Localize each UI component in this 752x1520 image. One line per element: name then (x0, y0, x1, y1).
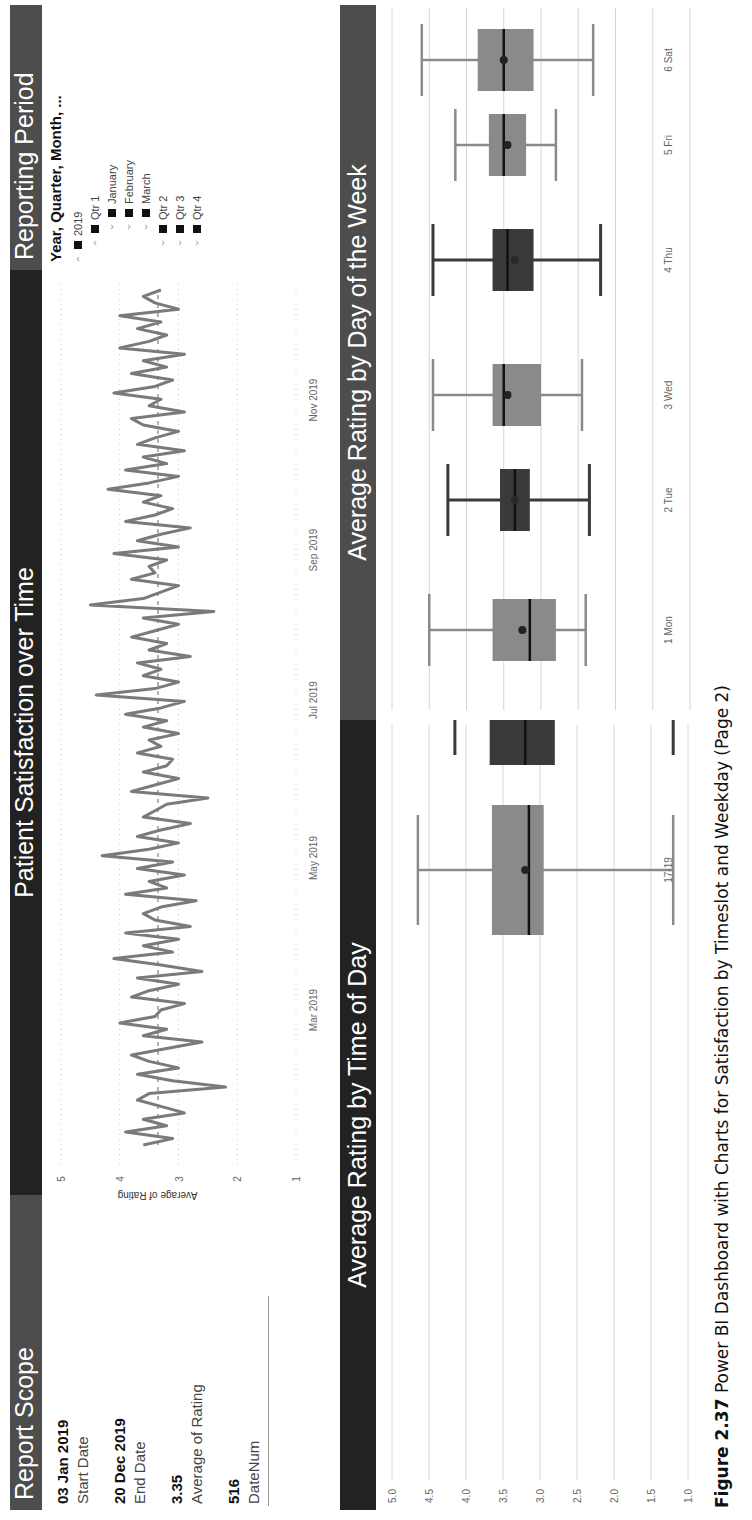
svg-text:3 Wed: 3 Wed (663, 381, 674, 410)
svg-text:3.5: 3.5 (498, 1489, 509, 1503)
end-date-value: 20 Dec 2019 (111, 1418, 128, 1504)
day-of-week-title: Average Rating by Day of the Week (340, 5, 374, 720)
report-scope-header: Report Scope (10, 1195, 42, 1510)
patient-satisfaction-chart[interactable]: Average of Rating 12345Mar 2019May 2019J… (42, 270, 332, 1195)
box-17-19[interactable] (418, 805, 673, 935)
line-chart-plot: 12345Mar 2019May 2019Jul 2019Sep 2019Nov… (42, 270, 332, 1195)
average-rating-value: 3.35 (168, 1475, 185, 1504)
datenum-label: DateNum (245, 1441, 262, 1504)
slicer-item-label: 2019 (72, 212, 84, 236)
box-3-wed[interactable] (433, 359, 582, 431)
expand-chevron-icon[interactable]: › (125, 220, 133, 232)
svg-text:Mar 2019: Mar 2019 (308, 988, 319, 1031)
checkbox-checked-icon[interactable] (142, 209, 150, 217)
svg-text:Sep 2019: Sep 2019 (308, 528, 319, 571)
box-15-17[interactable] (455, 720, 673, 765)
day-of-week-plot: 1.01.52.02.53.03.54.04.55.01 Mon2 Tue3 W… (376, 5, 696, 720)
svg-text:2 Tue: 2 Tue (663, 487, 674, 512)
checkbox-checked-icon[interactable] (125, 209, 133, 217)
checkbox-checked-icon[interactable] (91, 225, 99, 233)
svg-text:1.5: 1.5 (646, 1489, 657, 1503)
slicer-item-label: March (140, 173, 152, 204)
report-scope-title: Report Scope (10, 1195, 38, 1500)
slicer-item-qtr-2[interactable]: ›Qtr 2 (157, 196, 169, 246)
svg-text:4: 4 (115, 1176, 126, 1182)
time-of-day-title: Average Rating by Time of Day (340, 720, 374, 1510)
svg-text:5: 5 (56, 1176, 67, 1182)
time-of-day-header: Average Rating by Time of Day (340, 720, 376, 1510)
figure-number: Figure 2.37 (712, 1399, 732, 1509)
svg-text:6 Sat: 6 Sat (663, 48, 674, 72)
svg-text:5 Fri: 5 Fri (663, 135, 674, 155)
slicer-item-2019[interactable]: ‹2019 (72, 212, 84, 262)
svg-text:2.0: 2.0 (609, 1489, 620, 1503)
svg-text:2: 2 (232, 1176, 243, 1182)
reporting-period-title: Reporting Period (10, 5, 38, 260)
box-2-tue[interactable] (448, 464, 590, 536)
reporting-period-header: Reporting Period (10, 5, 42, 270)
checkbox-checked-icon[interactable] (193, 225, 201, 233)
svg-text:5.0: 5.0 (387, 1489, 398, 1503)
checkbox-checked-icon[interactable] (176, 225, 184, 233)
svg-text:1 Mon: 1 Mon (663, 616, 674, 644)
checkbox-checked-icon[interactable] (74, 241, 82, 249)
slicer-item-label: February (123, 160, 135, 204)
svg-text:Nov 2019: Nov 2019 (308, 378, 319, 421)
checkbox-checked-icon[interactable] (159, 225, 167, 233)
slicer-title: Year, Quarter, Month, ... (47, 95, 64, 262)
reporting-period-slicer[interactable]: Year, Quarter, Month, ... ‹2019‹Qtr 1›Ja… (42, 5, 332, 270)
figure-caption: Figure 2.37 Power BI Dashboard with Char… (712, 685, 732, 1508)
svg-text:4.5: 4.5 (424, 1489, 435, 1503)
svg-text:4.0: 4.0 (461, 1489, 472, 1503)
day-of-week-header: Average Rating by Day of the Week (340, 5, 376, 720)
svg-text:3: 3 (174, 1176, 185, 1182)
svg-text:2.5: 2.5 (572, 1489, 583, 1503)
slicer-item-label: Qtr 1 (89, 196, 101, 220)
day-of-week-boxplot[interactable]: 1.01.52.02.53.03.54.04.55.01 Mon2 Tue3 W… (376, 5, 696, 720)
svg-text:Jul 2019: Jul 2019 (308, 681, 319, 719)
slicer-item-label: Qtr 4 (191, 196, 203, 220)
slicer-item-label: Qtr 3 (174, 196, 186, 220)
svg-text:4 Thu: 4 Thu (663, 247, 674, 272)
time-of-day-plot: 1.01.52.02.53.03.54.04.55.009-1111-1313-… (376, 720, 696, 1510)
svg-text:17-19: 17-19 (663, 857, 674, 883)
svg-text:1.0: 1.0 (683, 1489, 694, 1503)
expand-chevron-icon[interactable]: › (176, 236, 184, 248)
dashboard-canvas: Report Scope Patient Satisfaction over T… (0, 0, 752, 1520)
expand-chevron-icon[interactable]: › (159, 236, 167, 248)
collapse-chevron-icon[interactable]: ‹ (74, 252, 82, 264)
slicer-item-label: Qtr 2 (157, 196, 169, 220)
expand-chevron-icon[interactable]: › (193, 236, 201, 248)
start-date-label: Start Date (74, 1436, 91, 1504)
slicer-item-qtr-3[interactable]: ›Qtr 3 (174, 196, 186, 246)
slicer-item-january[interactable]: ›January (106, 165, 118, 230)
slicer-item-qtr-4[interactable]: ›Qtr 4 (191, 196, 203, 246)
svg-text:3.0: 3.0 (535, 1489, 546, 1503)
expand-chevron-icon[interactable]: › (108, 220, 116, 232)
slicer-item-label: January (106, 165, 118, 204)
checkbox-checked-icon[interactable] (108, 209, 116, 217)
patient-satisfaction-title: Patient Satisfaction over Time (10, 270, 38, 1195)
box-6-sat[interactable] (422, 24, 593, 96)
time-of-day-boxplot[interactable]: 1.01.52.02.53.03.54.04.55.009-1111-1313-… (376, 720, 696, 1510)
end-date-label: End Date (131, 1441, 148, 1504)
start-date-value: 03 Jan 2019 (54, 1420, 71, 1504)
average-rating-label: Average of Rating (188, 1384, 205, 1504)
slicer-item-february[interactable]: ›February (123, 160, 135, 230)
box-1-mon[interactable] (429, 594, 585, 666)
slicer-item-qtr-1[interactable]: ‹Qtr 1 (89, 196, 101, 246)
box-4-thu[interactable] (433, 224, 601, 296)
expand-chevron-icon[interactable]: › (142, 220, 150, 232)
patient-satisfaction-header: Patient Satisfaction over Time (10, 270, 42, 1195)
svg-text:May 2019: May 2019 (308, 836, 319, 880)
slicer-item-march[interactable]: ›March (140, 173, 152, 230)
datenum-value: 516 (225, 1479, 242, 1504)
collapse-chevron-icon[interactable]: ‹ (91, 236, 99, 248)
svg-text:1: 1 (291, 1176, 302, 1182)
figure-text: Power BI Dashboard with Charts for Satis… (712, 685, 732, 1393)
report-scope-divider (268, 1296, 269, 1506)
